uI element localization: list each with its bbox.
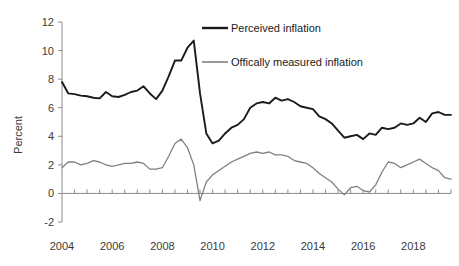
inflation-chart: 121086420-2 2004200620082010201220142016…: [0, 0, 459, 266]
chart-canvas: 121086420-2 2004200620082010201220142016…: [0, 0, 459, 266]
y-tick-label: 10: [42, 45, 54, 57]
x-tick-label: 2006: [100, 240, 124, 252]
x-tick-label: 2018: [401, 240, 425, 252]
chart-legend: Perceived inflationOffically measured in…: [202, 22, 363, 68]
x-tick-label: 2012: [251, 240, 275, 252]
x-tick-label: 2008: [150, 240, 174, 252]
y-tick-label: 2: [48, 159, 54, 171]
y-tick-label: 12: [42, 16, 54, 28]
y-axis: 121086420-2: [42, 16, 62, 228]
y-tick-label: 4: [48, 130, 54, 142]
legend-label-0: Perceived inflation: [231, 22, 321, 34]
series-line-1: [62, 139, 451, 200]
legend-label-1: Offically measured inflation: [231, 56, 363, 68]
x-axis: 20042006200820102012201420162018: [50, 189, 451, 252]
x-tick-label: 2010: [200, 240, 224, 252]
x-tick-label: 2004: [50, 240, 74, 252]
x-tick-label: 2016: [351, 240, 375, 252]
y-tick-label: 8: [48, 73, 54, 85]
y-tick-label: 0: [48, 187, 54, 199]
y-axis-title: Percent: [12, 116, 24, 154]
x-tick-label: 2014: [301, 240, 325, 252]
y-tick-label: -2: [44, 216, 54, 228]
y-tick-label: 6: [48, 102, 54, 114]
